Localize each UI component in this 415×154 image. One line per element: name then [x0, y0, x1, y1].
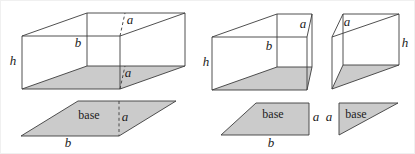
- left-box-bottom-face: [22, 66, 185, 89]
- middle-box-label-b: b: [266, 38, 273, 53]
- right-trapezoid-label-a: a: [313, 109, 320, 124]
- right-trapezoid-label-base: base: [262, 107, 283, 121]
- middle-box-label-h: h: [203, 54, 210, 69]
- right-triangle-label-base: base: [345, 107, 366, 121]
- left-box-label-b: b: [75, 35, 82, 50]
- left-base-label-a: a: [122, 109, 129, 124]
- left-base-label-b: b: [65, 135, 72, 150]
- left-box-label-a-bottom: a: [125, 65, 132, 80]
- left-box-height-a-dash-top: [120, 13, 125, 36]
- right-trapezoid-label-b: b: [268, 135, 275, 150]
- geometry-figure: hbaabaseabhbaahbaseababase: [0, 0, 415, 154]
- middle-box-label-a: a: [300, 16, 307, 31]
- small-prism-label-a: a: [344, 14, 351, 29]
- left-box-label-a-top: a: [127, 12, 134, 27]
- diagram-canvas: hbaabaseabhbaahbaseababase: [1, 1, 415, 154]
- middle-box-bottom-face: [212, 67, 312, 90]
- small-prism-label-h: h: [402, 35, 409, 50]
- left-box-label-h: h: [10, 53, 17, 68]
- left-base-label-base: base: [78, 108, 99, 122]
- right-triangle-label-a: a: [326, 109, 333, 124]
